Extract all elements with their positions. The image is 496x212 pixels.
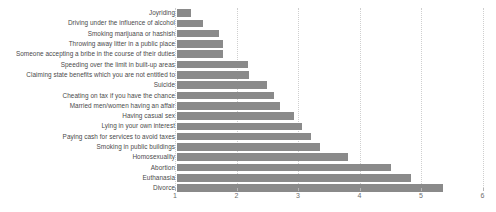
bar xyxy=(177,9,191,17)
category-label: Someone accepting a bribe in the course … xyxy=(16,51,175,57)
x-tick-label: 5 xyxy=(419,192,423,199)
x-tick-mark xyxy=(237,188,238,191)
bar xyxy=(177,92,274,100)
bar-row: Speeding over the limit in built-up area… xyxy=(0,60,496,70)
bar xyxy=(177,61,248,69)
bar xyxy=(177,164,391,172)
bar-row: Driving under the influence of alcohol xyxy=(0,18,496,28)
bar-row: Someone accepting a bribe in the course … xyxy=(0,49,496,59)
category-label: Paying cash for services to avoid taxes xyxy=(63,134,175,140)
bar xyxy=(177,174,411,182)
bar xyxy=(177,133,311,141)
bar xyxy=(177,112,294,120)
bar xyxy=(177,50,223,58)
x-tick-label: 2 xyxy=(235,192,239,199)
category-label: Smoking in public buildings xyxy=(97,144,175,150)
category-label: Euthanasia xyxy=(143,175,175,181)
bar xyxy=(177,81,267,89)
category-label: Lying in your own interest xyxy=(101,123,175,129)
category-label: Homosexuality xyxy=(132,154,175,160)
category-label: Cheating on tax if you have the chance xyxy=(63,92,175,98)
bar-row: Lying in your own interest xyxy=(0,121,496,131)
category-label: Having casual sex xyxy=(122,113,175,119)
category-label: Driving under the influence of alcohol xyxy=(68,20,175,26)
category-label: Claiming state benefits which you are no… xyxy=(26,72,175,78)
bar xyxy=(177,102,280,110)
category-label: Divorce xyxy=(153,185,175,191)
category-label: Speeding over the limit in built-up area… xyxy=(61,61,175,67)
bar-row: Suicide xyxy=(0,80,496,90)
bar xyxy=(177,153,348,161)
x-tick-mark xyxy=(483,188,484,191)
bar-row: Smoking in public buildings xyxy=(0,142,496,152)
category-label: Smoking marijuana or hashish xyxy=(88,31,175,37)
bar-row: Joyriding xyxy=(0,8,496,18)
plot-area: JoyridingDriving under the influence of … xyxy=(0,0,496,212)
x-tick-label: 6 xyxy=(481,192,485,199)
category-label: Married men/women having an affair xyxy=(70,103,175,109)
category-label: Suicide xyxy=(154,82,175,88)
bar-row: Married men/women having an affair xyxy=(0,101,496,111)
bar xyxy=(177,123,302,131)
x-tick-mark xyxy=(298,188,299,191)
x-tick-mark xyxy=(175,188,176,191)
x-tick-mark xyxy=(360,188,361,191)
x-tick-label: 3 xyxy=(296,192,300,199)
category-label: Joyriding xyxy=(149,10,175,16)
bar-row: Having casual sex xyxy=(0,111,496,121)
bar xyxy=(177,20,203,28)
bar xyxy=(177,71,249,79)
x-tick-label: 1 xyxy=(173,192,177,199)
bar-row: Abortion xyxy=(0,163,496,173)
bar xyxy=(177,40,223,48)
bar-row: Euthanasia xyxy=(0,173,496,183)
bar-row: Homosexuality xyxy=(0,152,496,162)
category-label: Abortion xyxy=(151,164,175,170)
bar xyxy=(177,184,443,192)
bar-row: Smoking marijuana or hashish xyxy=(0,29,496,39)
bar-row: Throwing away litter in a public place xyxy=(0,39,496,49)
bar xyxy=(177,30,219,38)
category-label: Throwing away litter in a public place xyxy=(69,41,175,47)
bar-row: Paying cash for services to avoid taxes xyxy=(0,132,496,142)
bar-row: Cheating on tax if you have the chance xyxy=(0,90,496,100)
bar-chart: JoyridingDriving under the influence of … xyxy=(0,0,496,212)
x-tick-mark xyxy=(421,188,422,191)
bar-row: Claiming state benefits which you are no… xyxy=(0,70,496,80)
x-tick-label: 4 xyxy=(358,192,362,199)
bar xyxy=(177,143,320,151)
